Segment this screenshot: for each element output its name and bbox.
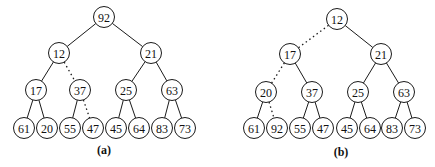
tree-edge: [165, 100, 170, 118]
tree-edge: [361, 102, 366, 118]
node-value: 92: [271, 122, 283, 136]
node-value: 63: [166, 84, 178, 98]
tree-node: 17: [26, 80, 47, 101]
tree-node: 21: [141, 43, 162, 64]
node-value: 73: [409, 122, 421, 136]
tree-b-edges: [257, 25, 412, 118]
tree-node: 45: [106, 118, 127, 139]
tree-node: 17: [280, 44, 301, 65]
tree-edge: [386, 63, 398, 83]
tree-edge: [156, 62, 167, 81]
tree-edge: [257, 102, 262, 118]
node-value: 64: [364, 122, 376, 136]
tree-node: 45: [337, 118, 358, 139]
tree-a-edges: [27, 23, 181, 118]
tree-node: 21: [371, 44, 392, 65]
tree-a-nodes: 921221173725636120554745648373: [14, 7, 196, 139]
tree-node: 92: [267, 118, 288, 139]
tree-edge-dashed: [269, 102, 274, 118]
tree-node: 47: [313, 118, 334, 139]
tree-node: 61: [14, 118, 35, 139]
tree-edge: [73, 100, 78, 118]
tree-edge-dashed: [83, 100, 89, 118]
tree-edge-dashed: [298, 25, 328, 47]
tree-node: 25: [348, 82, 369, 103]
node-value: 55: [294, 122, 306, 136]
node-value: 83: [156, 122, 168, 136]
tree-edge: [39, 100, 44, 118]
node-value: 17: [30, 84, 42, 98]
tree-edge: [67, 24, 96, 47]
tree-edge: [295, 63, 306, 83]
tree-node: 61: [244, 118, 265, 139]
node-value: 73: [179, 122, 191, 136]
tree-edge: [303, 102, 308, 118]
node-value: 45: [341, 122, 353, 136]
tree-edge: [119, 100, 124, 118]
tree-node: 64: [360, 118, 381, 139]
node-value: 12: [53, 47, 65, 61]
tree-node: 73: [405, 118, 426, 139]
heap-diagram: 921221173725636120554745648373 (a) 12172…: [0, 0, 435, 167]
tree-node: 25: [116, 80, 137, 101]
tree-edge-dashed: [272, 63, 285, 83]
node-value: 47: [317, 122, 329, 136]
tree-edge: [112, 23, 142, 46]
node-value: 12: [331, 13, 343, 27]
node-value: 83: [386, 122, 398, 136]
tree-edge: [350, 102, 355, 118]
node-value: 25: [120, 84, 132, 98]
tree-b: 121721203725636192554745648373 (b): [244, 9, 426, 160]
node-value: 17: [284, 48, 296, 62]
tree-node: 12: [327, 9, 348, 30]
tree-node: 47: [83, 118, 104, 139]
tree-b-caption: (b): [334, 145, 349, 159]
tree-node: 12: [49, 43, 70, 64]
node-value: 45: [110, 122, 122, 136]
tree-node: 37: [70, 80, 91, 101]
node-value: 55: [64, 122, 76, 136]
tree-edge: [395, 102, 400, 118]
tree-node: 64: [129, 118, 150, 139]
node-value: 21: [145, 47, 157, 61]
node-value: 21: [375, 48, 387, 62]
node-value: 61: [18, 122, 30, 136]
tree-node: 63: [394, 82, 415, 103]
tree-node: 55: [60, 118, 81, 139]
tree-b-nodes: 121721203725636192554745648373: [244, 9, 426, 139]
tree-edge-dashed: [64, 62, 75, 81]
tree-a: 921221173725636120554745648373 (a): [14, 7, 196, 158]
tree-edge: [345, 26, 373, 48]
tree-edge: [129, 100, 135, 118]
tree-edge: [315, 102, 320, 118]
tree-edge: [132, 62, 145, 82]
tree-a-caption: (a): [97, 143, 111, 157]
tree-edge: [175, 100, 181, 118]
tree-node: 92: [94, 7, 115, 28]
tree-edge: [42, 62, 54, 81]
tree-node: 63: [162, 80, 183, 101]
tree-node: 83: [382, 118, 403, 139]
node-value: 47: [87, 122, 99, 136]
tree-edge: [363, 63, 375, 83]
tree-node: 20: [37, 118, 58, 139]
node-value: 37: [74, 84, 86, 98]
node-value: 20: [41, 122, 53, 136]
tree-edge: [27, 100, 33, 118]
node-value: 63: [398, 86, 410, 100]
node-value: 61: [248, 122, 260, 136]
tree-node: 20: [256, 82, 277, 103]
tree-node: 73: [175, 118, 196, 139]
node-value: 20: [260, 86, 272, 100]
node-value: 64: [133, 122, 145, 136]
tree-node: 37: [302, 82, 323, 103]
tree-node: 83: [152, 118, 173, 139]
tree-node: 55: [290, 118, 311, 139]
node-value: 25: [352, 86, 364, 100]
node-value: 37: [306, 86, 318, 100]
tree-edge: [407, 102, 412, 118]
node-value: 92: [98, 11, 110, 25]
